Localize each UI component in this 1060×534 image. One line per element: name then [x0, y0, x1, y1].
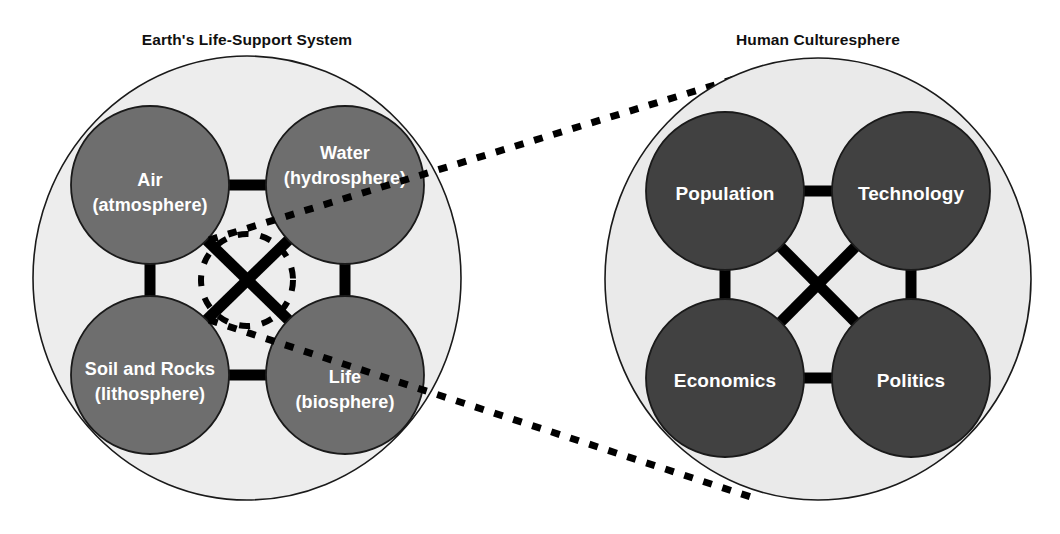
node-life-label-line2: (biosphere)	[295, 392, 394, 412]
node-economics-label: Economics	[674, 370, 776, 391]
left-group: Earth's Life-Support System Air (atm	[33, 31, 461, 500]
diagram-svg: Earth's Life-Support System Air (atm	[0, 0, 1060, 534]
node-air-label-line1: Air	[137, 170, 162, 190]
node-air-label-line2: (atmosphere)	[92, 195, 207, 215]
node-life-label-line1: Life	[329, 367, 361, 387]
node-population-label: Population	[675, 183, 774, 204]
node-water-label-line1: Water	[320, 143, 370, 163]
node-soil-label-line2: (lithosphere)	[95, 384, 205, 404]
left-group-title: Earth's Life-Support System	[142, 31, 353, 48]
node-soil-label-line1: Soil and Rocks	[85, 359, 215, 379]
node-technology-label: Technology	[858, 183, 965, 204]
right-group-title: Human Culturesphere	[736, 31, 900, 48]
node-politics-label: Politics	[877, 370, 945, 391]
diagram-canvas: Earth's Life-Support System Air (atm	[0, 0, 1060, 534]
